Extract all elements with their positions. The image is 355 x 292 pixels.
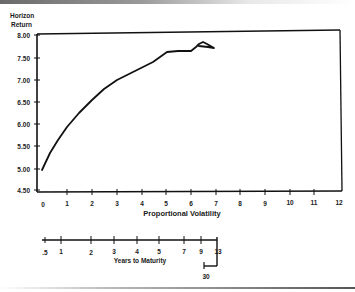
x-axis-title: Proportional Volatility <box>143 209 221 218</box>
plot-frame <box>37 30 342 192</box>
svg-text:2: 2 <box>90 200 94 207</box>
maturity-tick-4: 4 <box>135 236 139 255</box>
x-axis: 0 1 2 3 4 5 6 7 8 9 10 11 12 Proportiona… <box>41 189 343 218</box>
y-axis-title-line2: Return <box>11 21 32 28</box>
svg-text:4.50: 4.50 <box>17 187 30 194</box>
svg-text:.5: .5 <box>42 249 48 256</box>
maturity-tick-1: 1 <box>59 236 63 255</box>
svg-text:6.50: 6.50 <box>17 99 30 106</box>
svg-text:3: 3 <box>115 200 119 207</box>
svg-text:5.50: 5.50 <box>17 143 30 150</box>
svg-text:8.00: 8.00 <box>17 32 30 39</box>
svg-text:5.00: 5.00 <box>17 166 30 173</box>
svg-text:11: 11 <box>311 199 318 206</box>
svg-text:3: 3 <box>112 248 116 255</box>
maturity-axis: .5 1 2 3 4 5 7 9 13 Years to Maturity 30 <box>42 236 222 280</box>
scan-bottom-edge <box>0 287 355 289</box>
svg-text:2: 2 <box>89 249 93 256</box>
svg-text:10: 10 <box>286 199 294 206</box>
maturity-tick-7: 7 <box>182 236 186 255</box>
maturity-tick-3: 3 <box>112 236 116 255</box>
svg-text:9: 9 <box>263 200 267 207</box>
svg-text:7: 7 <box>182 248 186 255</box>
svg-text:9: 9 <box>199 248 203 255</box>
maturity-tick-5: 5 <box>157 236 161 255</box>
data-line <box>42 42 214 170</box>
svg-text:1: 1 <box>65 200 69 207</box>
maturity-axis-title: Years to Maturity <box>114 257 167 265</box>
svg-text:13: 13 <box>214 248 222 255</box>
svg-text:5: 5 <box>164 200 168 207</box>
x-tick-12: 12 <box>335 199 343 206</box>
svg-text:4: 4 <box>140 200 144 207</box>
maturity-tick-2: 2 <box>89 236 93 256</box>
y-axis-title-line1: Horizon <box>10 12 34 19</box>
svg-text:8: 8 <box>238 200 242 207</box>
svg-text:6: 6 <box>189 200 193 207</box>
svg-text:12: 12 <box>335 199 343 206</box>
maturity-tick-9: 9 <box>199 236 203 255</box>
maturity-tick-13: 13 <box>214 248 222 255</box>
x-tick-0: 0 <box>41 201 45 208</box>
svg-text:6.00: 6.00 <box>17 121 30 128</box>
chart: Horizon Return 8.00 7.50 7.00 6.50 6.00 … <box>0 0 355 292</box>
svg-text:7: 7 <box>214 200 218 207</box>
svg-text:1: 1 <box>59 248 63 255</box>
svg-text:7.50: 7.50 <box>17 55 30 62</box>
svg-text:7.00: 7.00 <box>17 77 30 84</box>
svg-text:4: 4 <box>135 248 139 255</box>
maturity-bracket-label: 30 <box>202 273 210 280</box>
svg-text:5: 5 <box>157 248 161 255</box>
svg-text:0: 0 <box>41 201 45 208</box>
